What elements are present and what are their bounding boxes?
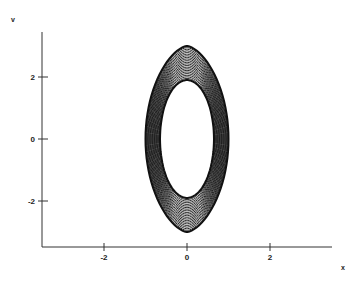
trajectory-loop <box>155 69 219 209</box>
trajectory-loop <box>156 70 218 207</box>
trajectory-loop <box>154 66 220 213</box>
y-tick-label: 0 <box>31 135 36 144</box>
trajectory-loop <box>155 67 220 211</box>
trajectory-loop <box>157 74 216 205</box>
y-axis-label: v <box>11 16 15 23</box>
trajectory-band <box>146 46 229 232</box>
trajectory-loop <box>159 77 216 201</box>
x-tick-label: 0 <box>185 253 190 262</box>
phase-plot: 2 0 -2 -2 0 2 v x <box>0 0 351 281</box>
y-tick-label: -2 <box>28 197 36 206</box>
x-axis-label: x <box>341 264 345 271</box>
y-tick-label: 2 <box>31 73 36 82</box>
x-tick-label: 2 <box>268 253 273 262</box>
trajectory-loop <box>158 75 216 202</box>
trajectory-loop <box>160 80 214 198</box>
trajectory-loop <box>157 72 218 206</box>
trajectory-loop <box>159 79 214 200</box>
x-tick-label: -2 <box>100 253 108 262</box>
